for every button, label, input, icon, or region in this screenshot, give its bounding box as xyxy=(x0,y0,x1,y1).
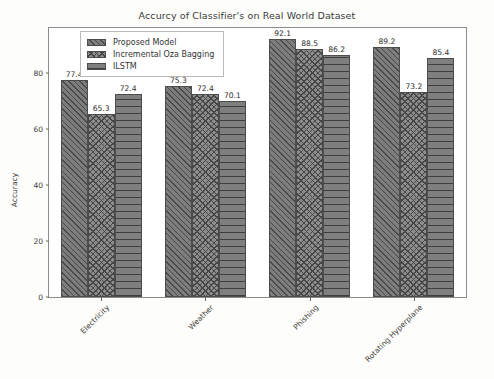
legend-item-ilstm: ILSTM xyxy=(87,60,214,72)
bar-value-label: 75.3 xyxy=(170,76,187,85)
y-axis-tick-mark xyxy=(46,128,50,129)
bar-value-label: 72.4 xyxy=(120,84,137,93)
legend-swatch-cross-hatch-icon xyxy=(87,51,106,58)
x-axis-tick-mark xyxy=(205,297,206,301)
chart-title: Accurcy of Classifier's on Real World Da… xyxy=(0,10,494,21)
bar-value-label: 92.1 xyxy=(274,29,291,38)
bar-value-label: 72.4 xyxy=(197,84,214,93)
y-axis-tick-mark xyxy=(46,184,50,185)
x-axis-tick-label: Electricity xyxy=(79,303,112,336)
bar-value-label: 73.2 xyxy=(405,82,422,91)
legend-label-proposed-model: Proposed Model xyxy=(113,38,176,47)
bar-value-label: 86.2 xyxy=(328,45,345,54)
legend-item-proposed-model: Proposed Model xyxy=(87,36,214,48)
bar-value-label: 65.3 xyxy=(93,104,110,113)
bar: 73.2 xyxy=(400,92,427,297)
legend-swatch-diagonal-hatch-icon xyxy=(87,39,106,46)
x-axis-tick-mark xyxy=(414,297,415,301)
bar: 89.2 xyxy=(373,47,400,297)
y-axis-tick-mark xyxy=(46,240,50,241)
legend-label-incremental-oza-bagging: Incremental Oza Bagging xyxy=(113,50,214,59)
x-axis-tick-label: Weather xyxy=(187,303,216,332)
x-axis-tick-label: Phishing xyxy=(291,303,320,332)
y-axis-tick-mark xyxy=(46,297,50,298)
legend-swatch-horizontal-lines-icon xyxy=(87,63,106,70)
y-axis-label: Accuracy xyxy=(10,172,19,206)
chart-figure: Accurcy of Classifier's on Real World Da… xyxy=(0,0,494,379)
chart-legend: Proposed Model Incremental Oza Bagging I… xyxy=(80,31,224,77)
bar: 77.4 xyxy=(61,80,88,297)
bar: 88.5 xyxy=(296,49,323,297)
bar: 70.1 xyxy=(219,101,246,297)
bar-value-label: 85.4 xyxy=(432,48,449,57)
bar-value-label: 70.1 xyxy=(224,91,241,100)
bar: 65.3 xyxy=(88,114,115,297)
bar-value-label: 89.2 xyxy=(378,37,395,46)
legend-label-ilstm: ILSTM xyxy=(113,62,137,71)
x-axis-tick-label: Rotating Hyperplane xyxy=(363,303,424,364)
x-axis-tick-mark xyxy=(101,297,102,301)
bar: 75.3 xyxy=(165,86,192,297)
bar-value-label: 88.5 xyxy=(301,39,318,48)
bar: 86.2 xyxy=(323,55,350,297)
x-axis-tick-mark xyxy=(310,297,311,301)
bar: 85.4 xyxy=(427,58,454,297)
y-axis-tick-mark xyxy=(46,72,50,73)
legend-item-incremental-oza-bagging: Incremental Oza Bagging xyxy=(87,48,214,60)
bar: 92.1 xyxy=(269,39,296,297)
bar: 72.4 xyxy=(192,94,219,297)
bar: 72.4 xyxy=(115,94,142,297)
